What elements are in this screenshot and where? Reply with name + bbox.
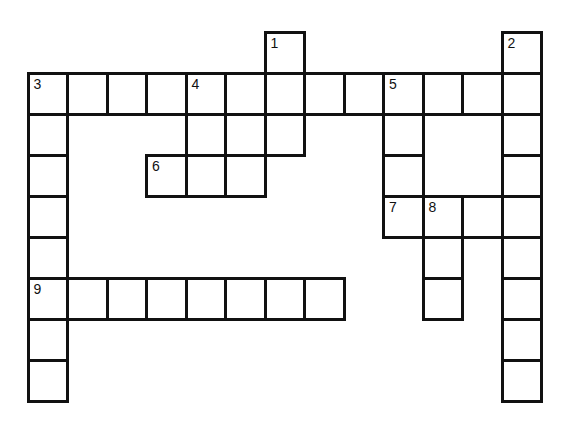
crossword-cell[interactable] xyxy=(264,113,307,157)
crossword-cell[interactable] xyxy=(106,277,149,321)
crossword-cell[interactable] xyxy=(422,72,465,116)
crossword-cell[interactable] xyxy=(224,277,267,321)
crossword-cell[interactable] xyxy=(27,154,70,198)
crossword-cell[interactable] xyxy=(185,154,228,198)
crossword-cell[interactable] xyxy=(501,195,544,239)
clue-number: 9 xyxy=(34,282,42,296)
crossword-cell[interactable] xyxy=(501,318,544,362)
crossword-cell[interactable]: 6 xyxy=(145,154,188,198)
crossword-cell[interactable] xyxy=(27,359,70,403)
crossword-cell[interactable] xyxy=(145,277,188,321)
crossword-cell[interactable] xyxy=(185,277,228,321)
crossword-cell[interactable] xyxy=(27,113,70,157)
crossword-cell[interactable] xyxy=(501,277,544,321)
crossword-cell[interactable] xyxy=(422,236,465,280)
crossword-cell[interactable] xyxy=(461,195,504,239)
crossword-cell[interactable] xyxy=(224,113,267,157)
crossword-cell[interactable] xyxy=(66,72,109,116)
crossword-cell[interactable] xyxy=(27,318,70,362)
crossword-cell[interactable]: 2 xyxy=(501,31,544,75)
crossword-grid: 123456789 xyxy=(0,0,568,425)
crossword-cell[interactable] xyxy=(145,72,188,116)
crossword-cell[interactable] xyxy=(66,277,109,321)
crossword-cell[interactable] xyxy=(27,195,70,239)
crossword-cell[interactable]: 4 xyxy=(185,72,228,116)
crossword-cell[interactable] xyxy=(264,72,307,116)
clue-number: 2 xyxy=(508,36,516,50)
clue-number: 4 xyxy=(192,77,200,91)
crossword-cell[interactable]: 1 xyxy=(264,31,307,75)
crossword-cell[interactable] xyxy=(106,72,149,116)
crossword-cell[interactable] xyxy=(422,277,465,321)
clue-number: 5 xyxy=(389,77,397,91)
crossword-cell[interactable] xyxy=(343,72,386,116)
clue-number: 7 xyxy=(389,200,397,214)
crossword-cell[interactable] xyxy=(303,72,346,116)
crossword-cell[interactable] xyxy=(501,359,544,403)
crossword-cell[interactable] xyxy=(224,154,267,198)
clue-number: 8 xyxy=(429,200,437,214)
clue-number: 1 xyxy=(271,36,279,50)
crossword-cell[interactable] xyxy=(185,113,228,157)
crossword-cell[interactable] xyxy=(264,277,307,321)
clue-number: 3 xyxy=(34,77,42,91)
crossword-cell[interactable]: 8 xyxy=(422,195,465,239)
crossword-cell[interactable] xyxy=(382,113,425,157)
crossword-cell[interactable] xyxy=(382,154,425,198)
crossword-cell[interactable] xyxy=(501,72,544,116)
crossword-cell[interactable] xyxy=(224,72,267,116)
crossword-cell[interactable] xyxy=(461,72,504,116)
crossword-cell[interactable] xyxy=(501,236,544,280)
crossword-cell[interactable]: 9 xyxy=(27,277,70,321)
crossword-cell[interactable] xyxy=(501,154,544,198)
crossword-cell[interactable]: 7 xyxy=(382,195,425,239)
crossword-cell[interactable] xyxy=(27,236,70,280)
crossword-cell[interactable] xyxy=(303,277,346,321)
crossword-cell[interactable]: 3 xyxy=(27,72,70,116)
crossword-cell[interactable]: 5 xyxy=(382,72,425,116)
crossword-cell[interactable] xyxy=(501,113,544,157)
clue-number: 6 xyxy=(152,159,160,173)
